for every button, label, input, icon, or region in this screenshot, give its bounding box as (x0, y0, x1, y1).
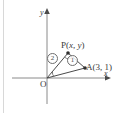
point-p-paren-close: ) (82, 40, 85, 50)
angle-marker-1: 1 (67, 55, 78, 66)
y-axis-label: y (40, 9, 44, 17)
coordinate-figure (0, 0, 119, 113)
point-p-dot (66, 51, 70, 55)
angle-arc-o (52, 72, 54, 77)
y-axis-arrowhead (44, 8, 50, 14)
point-p-label: P(x, y) (61, 41, 85, 50)
figure-svg (0, 0, 119, 113)
angle-marker-2: 2 (47, 53, 58, 64)
point-a-label: A(3, 1) (86, 63, 112, 72)
diagram-canvas: y x O P(x, y) A(3, 1) 2 1 (0, 0, 119, 113)
origin-label: O (40, 80, 47, 89)
